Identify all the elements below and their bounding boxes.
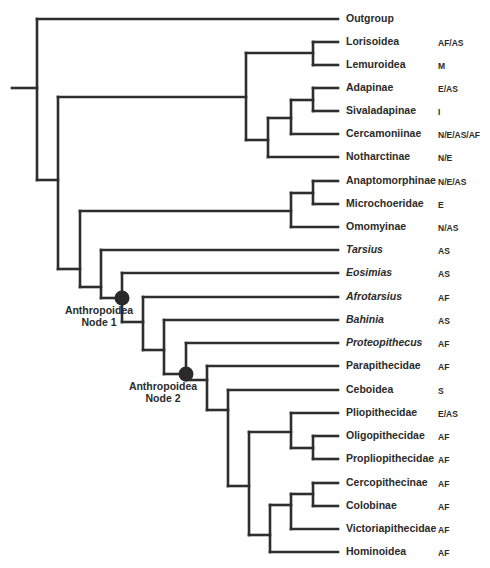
taxon-label: Parapithecidae xyxy=(346,359,421,371)
node-label-line2: Node 1 xyxy=(44,316,154,328)
region-label: AS xyxy=(438,315,450,327)
region-label: AF xyxy=(438,547,449,559)
taxon-label: Oligopithecidae xyxy=(346,429,425,441)
region-label: N/E/AS xyxy=(438,176,466,188)
taxon-label: Lorisoidea xyxy=(346,35,399,47)
region-label: E/AS xyxy=(438,408,458,420)
region-label: AF xyxy=(438,454,449,466)
tree-branches xyxy=(12,19,338,552)
region-label: I xyxy=(438,106,440,118)
taxon-label: Cercopithecinae xyxy=(346,476,428,488)
region-label: AS xyxy=(438,245,450,257)
region-label: E xyxy=(438,199,444,211)
taxon-label: Ceboidea xyxy=(346,383,393,395)
taxon-label: Proteopithecus xyxy=(346,336,422,348)
taxon-label: Hominoidea xyxy=(346,545,406,557)
region-label: AF/AS xyxy=(438,37,464,49)
node-label-line1: Anthropoidea xyxy=(108,380,218,392)
taxon-label: Victoriapithecidae xyxy=(346,522,436,534)
taxon-label: Pliopithecidae xyxy=(346,406,417,418)
region-label: AF xyxy=(438,524,449,536)
taxon-label: Colobinae xyxy=(346,499,397,511)
taxon-label: Eosimias xyxy=(346,266,392,278)
node-label-line2: Node 2 xyxy=(108,392,218,404)
taxon-label: Omomyinae xyxy=(346,220,406,232)
taxon-label: Adapinae xyxy=(346,81,393,93)
taxon-label: Outgroup xyxy=(346,12,394,24)
region-label: N/AS xyxy=(438,222,458,234)
taxon-label: Propliopithecidae xyxy=(346,452,434,464)
node-label-line1: Anthropoidea xyxy=(44,304,154,316)
taxon-label: Notharctinae xyxy=(346,150,410,162)
region-label: AF xyxy=(438,361,449,373)
taxon-label: Afrotarsius xyxy=(346,290,402,302)
taxon-label: Microchoeridae xyxy=(346,197,424,209)
taxon-label: Tarsius xyxy=(346,243,383,255)
anthropoidea-node-1-label: AnthropoideaNode 1 xyxy=(44,304,154,328)
anthropoidea-node-2-label: AnthropoideaNode 2 xyxy=(108,380,218,404)
taxon-label: Lemuroidea xyxy=(346,58,406,70)
region-label: N/E/AS/AF xyxy=(438,129,480,141)
region-label: S xyxy=(438,385,444,397)
taxon-label: Anaptomorphinae xyxy=(346,174,436,186)
region-label: M xyxy=(438,60,445,72)
taxon-label: Cercamoniinae xyxy=(346,127,421,139)
region-label: E/AS xyxy=(438,83,458,95)
region-label: N/E xyxy=(438,152,452,164)
region-label: AS xyxy=(438,268,450,280)
region-label: AF xyxy=(438,501,449,513)
region-label: AF xyxy=(438,431,449,443)
taxon-label: Bahinia xyxy=(346,313,384,325)
taxon-label: Sivaladapinae xyxy=(346,104,416,116)
region-label: AF xyxy=(438,338,449,350)
region-label: AF xyxy=(438,292,449,304)
region-label: AF xyxy=(438,478,449,490)
